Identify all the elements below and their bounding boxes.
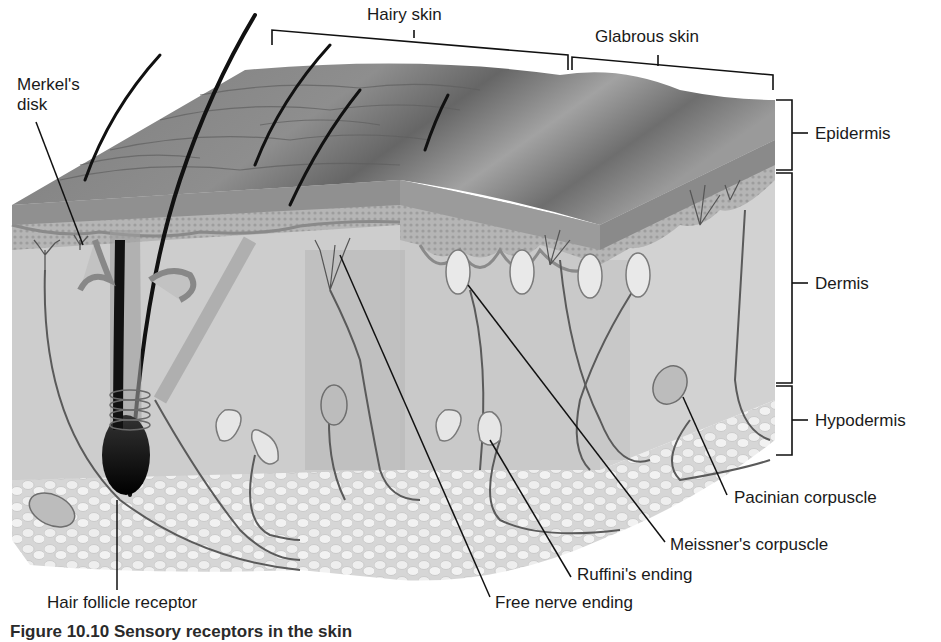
label-free-nerve-ending: Free nerve ending [495,593,633,613]
label-meissners-corpuscle: Meissner's corpuscle [670,535,828,555]
label-hairy-skin: Hairy skin [367,5,442,25]
figure-caption: Figure 10.10 Sensory receptors in the sk… [10,622,352,642]
label-hair-follicle-receptor: Hair follicle receptor [47,593,197,613]
dermis-dark-band [305,250,405,470]
label-ruffinis-ending: Ruffini's ending [577,565,692,585]
label-merkels-disk: Merkel's disk [17,75,87,114]
label-epidermis: Epidermis [815,124,891,144]
label-glabrous-skin: Glabrous skin [595,27,699,47]
label-hypodermis: Hypodermis [815,411,906,431]
label-pacinian-corpuscle: Pacinian corpuscle [734,488,877,508]
label-dermis: Dermis [815,274,869,294]
layer-brackets [776,100,808,455]
